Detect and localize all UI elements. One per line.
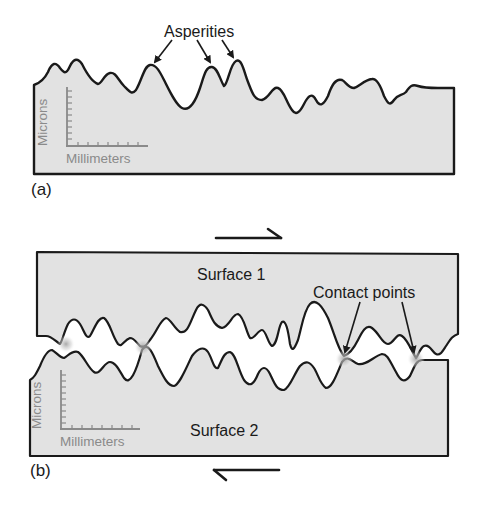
panel-a-label: (a)	[31, 181, 52, 198]
y-axis-label-a: Microns	[36, 99, 50, 146]
asperity-arrows	[155, 40, 233, 62]
asperities-label: Asperities	[164, 24, 234, 40]
surface-2-label: Surface 2	[190, 423, 258, 439]
x-axis-label-b: Millimeters	[60, 435, 125, 449]
surface-1-label: Surface 1	[197, 267, 265, 283]
motion-arrow-right-icon	[216, 229, 281, 238]
contact-points-label: Contact points	[313, 285, 415, 301]
x-axis-label-a: Millimeters	[66, 152, 131, 166]
motion-arrow-left-icon	[214, 470, 279, 480]
y-axis-label-b: Microns	[30, 382, 44, 429]
panel-b-label: (b)	[30, 462, 51, 479]
